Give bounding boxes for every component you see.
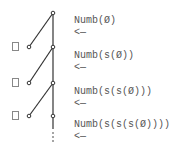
leaf-dot [27,114,31,118]
leaf-dot [27,81,31,85]
checkbox-row-2[interactable] [12,42,19,51]
arrow-icon: <— [74,131,86,142]
term-text: Numb(Ø) [74,15,116,26]
arrow-icon: <— [74,27,86,38]
continuation-dot [52,132,54,134]
checkbox-row-4[interactable] [12,111,19,120]
node-dot [51,81,55,85]
branch-line [29,83,53,116]
node-dot [51,45,55,49]
branch-line [29,13,53,47]
continuation-dot [52,136,54,138]
node-dot [51,114,55,118]
term-row-3: Numb(s(s(Ø))) <— [62,74,152,110]
continuation-dot [52,140,54,142]
term-text: Numb(s(Ø)) [74,50,134,61]
arrow-icon: <— [74,62,86,73]
term-row-2: Numb(s(Ø)) <— [62,38,134,74]
term-text: Numb(s(s(Ø))) [74,86,152,97]
term-text: Numb(s(s(s(Ø)))) [74,119,170,130]
node-dot [51,11,55,15]
branch-line [29,47,53,83]
term-row-1: Numb(Ø) <— [62,3,116,39]
checkbox-row-3[interactable] [12,78,19,87]
term-row-4: Numb(s(s(s(Ø)))) <— [62,107,170,143]
leaf-dot [27,45,31,49]
